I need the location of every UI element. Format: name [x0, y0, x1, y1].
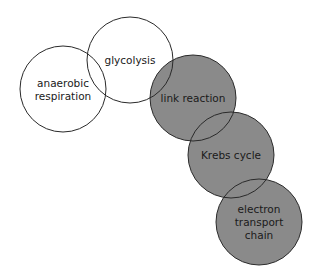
- respiration-stages-diagram: anaerobicrespirationglycolysislink react…: [0, 0, 318, 277]
- electron-transport-chain-label-line: transport: [235, 216, 284, 228]
- electron-transport-chain-label-line: chain: [245, 229, 273, 241]
- link-reaction-label: link reaction: [161, 92, 226, 104]
- krebs-cycle-label-line: Krebs cycle: [201, 149, 261, 161]
- anaerobic-respiration-label-line: anaerobic: [37, 77, 89, 89]
- glycolysis-label-line: glycolysis: [105, 54, 156, 66]
- anaerobic-respiration-label: anaerobicrespiration: [35, 77, 91, 102]
- anaerobic-respiration-label-line: respiration: [35, 90, 91, 102]
- electron-transport-chain-label-line: electron: [238, 203, 281, 215]
- krebs-cycle-label: Krebs cycle: [201, 149, 261, 161]
- link-reaction-label-line: link reaction: [161, 92, 226, 104]
- glycolysis-label: glycolysis: [105, 54, 156, 66]
